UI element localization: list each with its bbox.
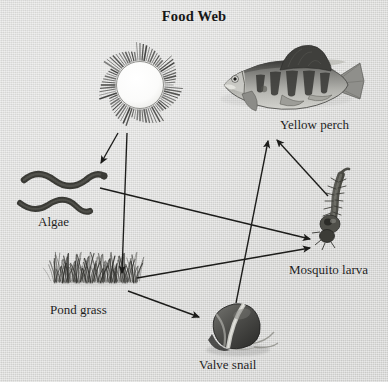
arrow-sun-to-pond-grass — [122, 133, 127, 273]
arrow-sun-to-algae — [101, 133, 118, 163]
arrow-layer — [0, 0, 388, 382]
arrow-pond-grass-to-mosquito-larva — [137, 248, 310, 278]
arrow-algae-to-mosquito-larva — [100, 188, 310, 239]
arrow-pond-grass-to-valve-snail — [128, 291, 199, 317]
arrow-mosquito-larva-to-yellow-perch — [277, 140, 328, 196]
food-web-diagram: Food Web — [0, 0, 388, 382]
